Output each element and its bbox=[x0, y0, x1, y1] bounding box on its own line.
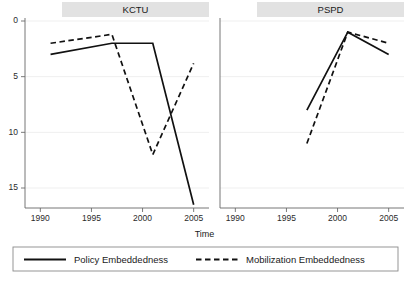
y-tick-label: 15 bbox=[9, 182, 19, 192]
panel-title-pspd: PSPD bbox=[318, 4, 344, 15]
x-tick-label: 2000 bbox=[133, 213, 152, 223]
chart-legend: Policy Embeddedness Mobilization Embedde… bbox=[13, 247, 398, 271]
line-chart-svg: KCTU 0510151990199520002005 PSPD 1990199… bbox=[0, 0, 409, 281]
x-tick-label: 1995 bbox=[82, 213, 101, 223]
x-tick-label: 2005 bbox=[379, 213, 398, 223]
x-axis-title: Time bbox=[195, 229, 215, 239]
x-tick-label: 1995 bbox=[277, 213, 296, 223]
x-tick-label: 2000 bbox=[328, 213, 347, 223]
y-tick-label: 10 bbox=[9, 127, 19, 137]
legend-label-mobilization: Mobilization Embeddedness bbox=[246, 254, 365, 265]
panel-title-kctu: KCTU bbox=[123, 4, 149, 15]
x-tick-label: 2005 bbox=[184, 213, 203, 223]
chart-figure: KCTU 0510151990199520002005 PSPD 1990199… bbox=[0, 0, 409, 281]
y-tick-label: 0 bbox=[13, 15, 18, 25]
x-tick-label: 1990 bbox=[226, 213, 245, 223]
x-tick-label: 1990 bbox=[31, 213, 50, 223]
y-tick-label: 5 bbox=[13, 71, 18, 81]
legend-label-policy: Policy Embeddedness bbox=[74, 254, 168, 265]
